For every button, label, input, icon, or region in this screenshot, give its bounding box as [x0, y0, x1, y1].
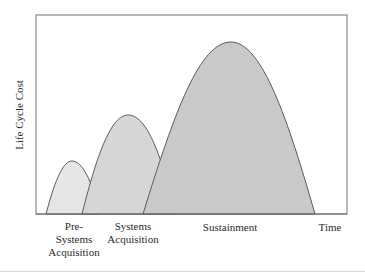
bottom-divider [0, 271, 365, 272]
phase1-line1: Pre- [44, 220, 104, 233]
phase-label-pre-systems-acquisition: Pre- Systems Acquisition [44, 220, 104, 259]
phase-label-systems-acquisition: Systems Acquisition [102, 220, 164, 246]
phase-label-sustainment: Sustainment [195, 221, 265, 234]
x-axis-label: Time [310, 221, 350, 234]
y-axis-label: Life Cycle Cost [12, 65, 26, 165]
x-axis-label-text: Time [310, 221, 350, 234]
phase2-line1: Systems [102, 220, 164, 233]
phase3-text: Sustainment [195, 221, 265, 234]
phase2-line2: Acquisition [102, 233, 164, 246]
phase1-line2: Systems [44, 233, 104, 246]
phase1-line3: Acquisition [44, 246, 104, 259]
y-axis-label-text: Life Cycle Cost [13, 80, 25, 150]
